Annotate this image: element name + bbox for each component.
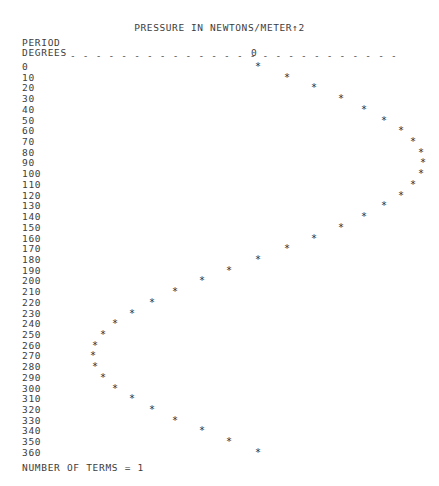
degree-label: 70 <box>22 136 64 147</box>
plot-row: 190* <box>0 265 439 276</box>
data-point-marker: * <box>361 104 367 115</box>
degree-label: 130 <box>22 200 64 211</box>
plot-row: 170* <box>0 243 439 254</box>
plot-row: 240* <box>0 318 439 329</box>
plot-row: 10* <box>0 72 439 83</box>
plot-row: 60* <box>0 125 439 136</box>
plot-row: 150* <box>0 222 439 233</box>
data-point-marker: * <box>92 361 98 372</box>
plot-row: 340* <box>0 425 439 436</box>
plot-row: 160* <box>0 233 439 244</box>
data-point-marker: * <box>410 136 416 147</box>
degree-label: 350 <box>22 436 64 447</box>
plot-row: 130* <box>0 200 439 211</box>
data-point-marker: * <box>226 436 232 447</box>
data-point-marker: * <box>92 340 98 351</box>
plot-row: 70* <box>0 136 439 147</box>
plot-row: 260* <box>0 340 439 351</box>
degree-label: 330 <box>22 415 64 426</box>
data-point-marker: * <box>398 190 404 201</box>
plot-rows: 0*10*20*30*40*50*60*70*80*90*100*110*120… <box>0 0 439 440</box>
degree-label: 180 <box>22 254 64 265</box>
degree-label: 110 <box>22 179 64 190</box>
data-point-marker: * <box>418 147 424 158</box>
plot-row: 220* <box>0 297 439 308</box>
degree-label: 40 <box>22 104 64 115</box>
plot-row: 200* <box>0 275 439 286</box>
degree-label: 190 <box>22 265 64 276</box>
data-point-marker: * <box>149 297 155 308</box>
degree-label: 240 <box>22 318 64 329</box>
plot-row: 360* <box>0 447 439 458</box>
plot-row: 0* <box>0 61 439 72</box>
plot-row: 110* <box>0 179 439 190</box>
data-point-marker: * <box>129 393 135 404</box>
data-point-marker: * <box>112 318 118 329</box>
degree-label: 250 <box>22 329 64 340</box>
data-point-marker: * <box>255 447 261 458</box>
degree-label: 0 <box>22 61 64 72</box>
data-point-marker: * <box>100 372 106 383</box>
data-point-marker: * <box>226 265 232 276</box>
plot-row: 290* <box>0 372 439 383</box>
data-point-marker: * <box>398 125 404 136</box>
data-point-marker: * <box>381 115 387 126</box>
data-point-marker: * <box>418 168 424 179</box>
degree-label: 90 <box>22 157 64 168</box>
plot-row: 270* <box>0 350 439 361</box>
degree-label: 340 <box>22 425 64 436</box>
degree-label: 200 <box>22 275 64 286</box>
degree-label: 20 <box>22 82 64 93</box>
data-point-marker: * <box>255 254 261 265</box>
plot-row: 250* <box>0 329 439 340</box>
degree-label: 210 <box>22 286 64 297</box>
plot-row: 320* <box>0 404 439 415</box>
data-point-marker: * <box>112 383 118 394</box>
data-point-marker: * <box>361 211 367 222</box>
degree-label: 100 <box>22 168 64 179</box>
plot-page: PRESSURE IN NEWTONS/METER↑2 PERIOD DEGRE… <box>0 0 439 486</box>
degree-label: 140 <box>22 211 64 222</box>
plot-row: 330* <box>0 415 439 426</box>
data-point-marker: * <box>410 179 416 190</box>
plot-row: 300* <box>0 383 439 394</box>
plot-row: 180* <box>0 254 439 265</box>
degree-label: 50 <box>22 115 64 126</box>
plot-row: 100* <box>0 168 439 179</box>
degree-label: 290 <box>22 372 64 383</box>
data-point-marker: * <box>284 243 290 254</box>
data-point-marker: * <box>129 308 135 319</box>
data-point-marker: * <box>199 425 205 436</box>
plot-row: 280* <box>0 361 439 372</box>
degree-label: 220 <box>22 297 64 308</box>
degree-label: 270 <box>22 350 64 361</box>
data-point-marker: * <box>172 286 178 297</box>
data-point-marker: * <box>420 157 426 168</box>
degree-label: 310 <box>22 393 64 404</box>
degree-label: 150 <box>22 222 64 233</box>
plot-row: 20* <box>0 82 439 93</box>
degree-label: 260 <box>22 340 64 351</box>
plot-row: 90* <box>0 157 439 168</box>
plot-row: 230* <box>0 308 439 319</box>
degree-label: 120 <box>22 190 64 201</box>
degree-label: 280 <box>22 361 64 372</box>
data-point-marker: * <box>381 200 387 211</box>
degree-label: 30 <box>22 93 64 104</box>
plot-row: 120* <box>0 190 439 201</box>
degree-label: 80 <box>22 147 64 158</box>
data-point-marker: * <box>338 222 344 233</box>
data-point-marker: * <box>90 350 96 361</box>
plot-row: 350* <box>0 436 439 447</box>
plot-row: 30* <box>0 93 439 104</box>
plot-row: 50* <box>0 115 439 126</box>
data-point-marker: * <box>149 404 155 415</box>
degree-label: 170 <box>22 243 64 254</box>
data-point-marker: * <box>255 61 261 72</box>
data-point-marker: * <box>172 415 178 426</box>
plot-row: 310* <box>0 393 439 404</box>
plot-row: 80* <box>0 147 439 158</box>
data-point-marker: * <box>284 72 290 83</box>
degree-label: 360 <box>22 447 64 458</box>
degree-label: 60 <box>22 125 64 136</box>
